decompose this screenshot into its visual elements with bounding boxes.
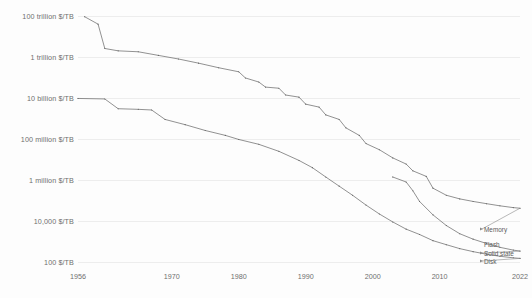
data-point [345, 127, 346, 128]
data-point [379, 213, 380, 214]
leader-arrowhead-icon [480, 259, 483, 262]
plot-area [0, 0, 532, 298]
data-point [319, 107, 320, 108]
data-point [84, 16, 85, 17]
data-point [298, 160, 299, 161]
data-point [432, 214, 433, 215]
data-point [278, 88, 279, 89]
data-point [225, 135, 226, 136]
data-point [118, 108, 119, 109]
data-point [412, 190, 413, 191]
data-point [118, 50, 119, 51]
data-point [138, 51, 139, 52]
data-point [198, 63, 199, 64]
data-point [238, 71, 239, 72]
data-point [412, 170, 413, 171]
data-point [473, 201, 474, 202]
data-point [325, 114, 326, 115]
data-point [486, 203, 487, 204]
series-line-memory [85, 17, 520, 208]
data-point [392, 176, 393, 177]
data-point [446, 225, 447, 226]
data-point [392, 221, 393, 222]
data-point [426, 176, 427, 177]
data-point [238, 139, 239, 140]
series-label-solid-state: Solid state [484, 250, 514, 257]
data-point [406, 229, 407, 230]
data-point [459, 233, 460, 234]
data-point [325, 176, 326, 177]
data-point [305, 104, 306, 105]
leader-arrowhead-icon [480, 227, 483, 230]
data-point [205, 130, 206, 131]
data-point [513, 207, 514, 208]
data-point [339, 186, 340, 187]
series-label-memory: Memory [484, 226, 507, 233]
storage-cost-chart: 100 trillion $/TB1 trillion $/TB10 billi… [0, 0, 532, 298]
data-point [245, 77, 246, 78]
data-point [432, 188, 433, 189]
data-point [473, 251, 474, 252]
leader-arrowhead-icon [480, 251, 483, 254]
data-point [165, 119, 166, 120]
data-point [312, 167, 313, 168]
series-line-flash-solid-state [393, 177, 520, 251]
data-point [392, 157, 393, 158]
data-point [499, 205, 500, 206]
data-point [258, 144, 259, 145]
data-point [459, 198, 460, 199]
series-label-flash: Flash [484, 241, 500, 248]
data-point [285, 94, 286, 95]
data-point [352, 195, 353, 196]
data-point [258, 82, 259, 83]
data-point [446, 244, 447, 245]
data-point [359, 135, 360, 136]
data-point [158, 55, 159, 56]
data-point [419, 234, 420, 235]
data-point [419, 201, 420, 202]
data-point [104, 48, 105, 49]
data-point [77, 98, 78, 99]
series-line-disk [78, 98, 520, 258]
data-point [379, 149, 380, 150]
data-point [151, 109, 152, 110]
data-point [513, 257, 514, 258]
data-point [185, 124, 186, 125]
data-point [218, 67, 219, 68]
data-point [178, 58, 179, 59]
data-point [446, 195, 447, 196]
data-point [104, 98, 105, 99]
data-point [365, 205, 366, 206]
data-point [138, 109, 139, 110]
data-point [298, 97, 299, 98]
data-point [406, 164, 407, 165]
data-point [432, 240, 433, 241]
data-point [265, 87, 266, 88]
data-point [473, 239, 474, 240]
data-point [365, 143, 366, 144]
data-point [406, 181, 407, 182]
data-point [98, 24, 99, 25]
data-point [459, 248, 460, 249]
data-point [278, 151, 279, 152]
data-point [339, 119, 340, 120]
series-label-disk: Disk [484, 258, 496, 265]
